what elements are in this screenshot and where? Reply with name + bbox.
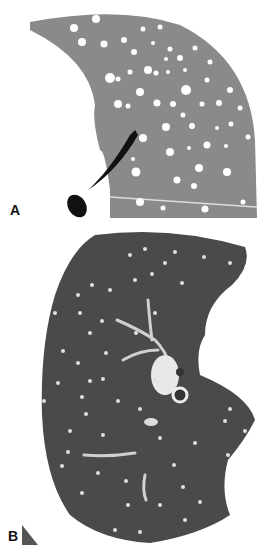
panel-b-ct-image: B [0, 225, 275, 552]
panel-a-schematic: A [0, 0, 275, 225]
panel-label-b: B [8, 528, 18, 544]
ct-lung-image [0, 225, 275, 552]
panel-label-a: A [10, 202, 20, 218]
schematic-lung-diagram [0, 0, 275, 225]
